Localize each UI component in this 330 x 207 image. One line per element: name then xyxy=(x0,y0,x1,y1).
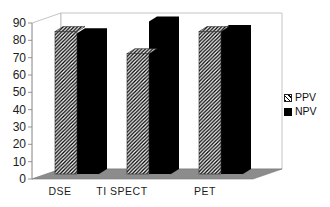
y-axis-tick-label: 0 xyxy=(19,172,26,186)
bar-chart-3d-canvas: 0102030405060708090DSETI SPECTPET xyxy=(0,0,330,207)
y-axis-tick-label: 70 xyxy=(13,51,27,65)
x-axis-category-label: PET xyxy=(194,185,216,197)
y-axis-tick-label: 90 xyxy=(13,16,27,30)
chart-legend: PPV NPV xyxy=(284,92,317,117)
bar-npv-dse xyxy=(77,28,107,174)
bar-ppv-pet xyxy=(199,32,221,174)
y-axis-tick-label: 80 xyxy=(13,33,27,47)
y-axis-tick-label: 10 xyxy=(13,155,27,169)
viability-bar-chart: 0102030405060708090DSETI SPECTPET PPV NP… xyxy=(0,0,330,207)
x-axis-category-label: TI SPECT xyxy=(96,185,147,197)
ppv-hatch-swatch-icon xyxy=(284,94,292,102)
legend-item-ppv: PPV xyxy=(284,92,317,103)
legend-label-npv: NPV xyxy=(295,106,317,117)
legend-item-npv: NPV xyxy=(284,106,317,117)
npv-solid-swatch-icon xyxy=(284,108,292,116)
bar-ppv-dse xyxy=(55,32,77,174)
y-axis-tick-label: 30 xyxy=(13,120,27,134)
x-axis-category-label: DSE xyxy=(48,185,71,197)
y-axis-tick-label: 40 xyxy=(13,103,27,117)
y-axis-tick-label: 50 xyxy=(13,85,27,99)
y-axis-tick-label: 20 xyxy=(13,137,27,151)
bar-npv-pet xyxy=(221,25,251,174)
legend-label-ppv: PPV xyxy=(295,92,316,103)
bar-npv-ti-spect xyxy=(149,16,179,174)
y-axis-tick-label: 60 xyxy=(13,68,27,82)
bar-ppv-ti-spect xyxy=(127,54,149,174)
